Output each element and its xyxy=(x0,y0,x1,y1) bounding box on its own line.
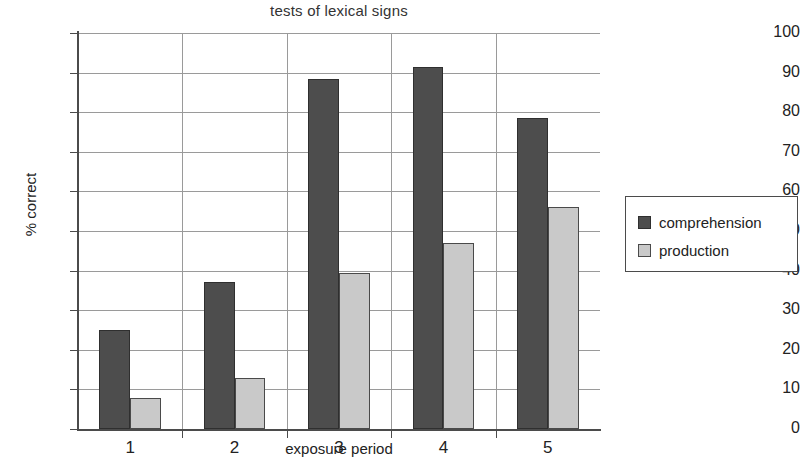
y-tick xyxy=(70,350,78,351)
y-tick xyxy=(70,310,78,311)
y-tick xyxy=(70,231,78,232)
bar-production-2 xyxy=(235,378,266,429)
y-tick-label: 30 xyxy=(736,301,800,317)
bar-production-5 xyxy=(548,207,579,429)
x-axis-line xyxy=(77,429,601,431)
x-tick xyxy=(391,430,392,438)
legend-item-production: production xyxy=(638,236,797,264)
y-tick-label: 0 xyxy=(736,420,800,436)
bar-comprehension-3 xyxy=(308,79,339,429)
legend-swatch-icon-comprehension xyxy=(638,216,651,229)
bar-comprehension-5 xyxy=(517,118,548,429)
gridline-x xyxy=(391,33,392,429)
y-tick-label: 70 xyxy=(736,143,800,159)
x-axis-title: exposure period xyxy=(78,440,600,457)
y-tick xyxy=(70,112,78,113)
y-axis-title: % correct xyxy=(22,145,39,265)
bar-comprehension-4 xyxy=(413,67,444,429)
x-tick xyxy=(287,430,288,438)
chart-legend: comprehension production xyxy=(625,196,798,272)
y-tick xyxy=(70,191,78,192)
gridline-x xyxy=(182,33,183,429)
y-tick-label: 90 xyxy=(736,64,800,80)
y-tick xyxy=(70,271,78,272)
plot-area xyxy=(78,33,600,429)
y-tick xyxy=(70,73,78,74)
chart-title: tests of lexical signs xyxy=(78,2,600,19)
y-tick xyxy=(70,152,78,153)
legend-item-comprehension: comprehension xyxy=(638,208,797,236)
bar-chart-figure: tests of lexical signs % correct 1009080… xyxy=(0,0,800,466)
x-tick xyxy=(182,430,183,438)
bar-comprehension-2 xyxy=(204,282,235,429)
bar-production-4 xyxy=(443,243,474,429)
y-axis-labels: % correct xyxy=(0,0,68,466)
y-tick-label: 10 xyxy=(736,380,800,396)
y-tick xyxy=(70,429,78,430)
y-tick-label: 80 xyxy=(736,103,800,119)
legend-label-comprehension: comprehension xyxy=(659,214,762,231)
gridline-x xyxy=(287,33,288,429)
bar-production-1 xyxy=(130,398,161,429)
legend-swatch-icon-production xyxy=(638,244,651,257)
legend-label-production: production xyxy=(659,242,729,259)
bar-comprehension-1 xyxy=(99,330,130,429)
y-tick xyxy=(70,389,78,390)
gridline-y xyxy=(78,33,600,34)
y-tick xyxy=(70,33,78,34)
x-tick xyxy=(496,430,497,438)
y-tick-label: 100 xyxy=(736,24,800,40)
y-tick-label: 20 xyxy=(736,341,800,357)
bar-production-3 xyxy=(339,273,370,429)
gridline-x xyxy=(496,33,497,429)
gridline-y xyxy=(78,112,600,113)
gridline-y xyxy=(78,73,600,74)
